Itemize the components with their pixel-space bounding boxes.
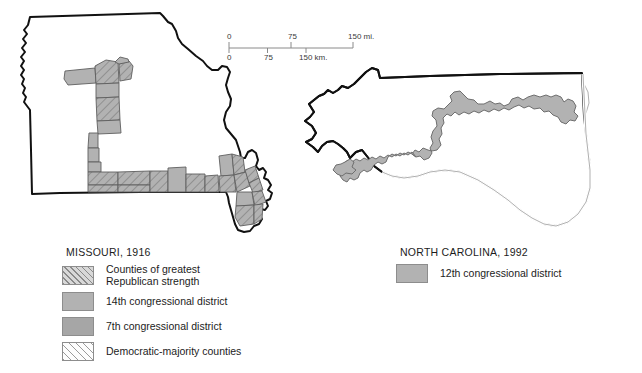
- county-shape: [95, 60, 119, 84]
- county-shape: [205, 175, 219, 192]
- north-carolina-legend: NORTH CAROLINA, 1992 12th congressional …: [396, 246, 561, 289]
- scale-km-75: 75: [264, 53, 273, 62]
- county-shape: [118, 185, 150, 192]
- north-carolina-map: [305, 68, 590, 226]
- nc-12th-district-southern-bulb: [333, 159, 356, 176]
- swatch-7th-district: [62, 317, 94, 336]
- legend-label-12th-district: 12th congressional district: [440, 268, 561, 280]
- county-shape: [118, 171, 150, 185]
- county-shape: [97, 120, 121, 134]
- swatch-12th-district: [396, 264, 428, 283]
- county-shape: [235, 205, 254, 226]
- legend-label-7th-district: 7th congressional district: [106, 321, 222, 333]
- distance-scale-bar: 0 75 150 mi. 0 75 150 km.: [227, 33, 363, 63]
- swatch-democratic-counties: [62, 342, 94, 361]
- missouri-legend: MISSOURI, 1916 Counties of greatest Repu…: [62, 246, 241, 367]
- scale-miles-150: 150 mi.: [348, 32, 374, 41]
- legend-label-republican-strength: Counties of greatest Republican strength: [106, 264, 200, 287]
- missouri-legend-title: MISSOURI, 1916: [66, 246, 241, 258]
- legend-item-14th-district: 14th congressional district: [62, 292, 241, 311]
- county-shape: [150, 171, 168, 192]
- county-shape: [88, 185, 118, 192]
- swatch-republican-strength: [62, 266, 94, 285]
- map-figure: 0 75 150 mi. 0 75 150 km. MISSOURI, 1916…: [0, 0, 642, 373]
- county-shape: [232, 154, 245, 175]
- county-shape: [219, 175, 236, 192]
- county-shape: [88, 172, 118, 185]
- county-shape: [236, 192, 254, 206]
- scale-miles-75: 75: [288, 32, 297, 41]
- county-shape: [186, 174, 205, 192]
- legend-item-12th-district: 12th congressional district: [396, 264, 561, 283]
- county-shape: [168, 167, 186, 192]
- scale-km-150: 150 km.: [299, 53, 327, 62]
- scale-km-0: 0: [227, 53, 231, 62]
- legend-item-democratic-counties: Democratic-majority counties: [62, 342, 241, 361]
- nc-state-outline: [305, 68, 590, 226]
- legend-label-democratic-counties: Democratic-majority counties: [106, 346, 241, 358]
- county-shape: [96, 83, 119, 98]
- county-shape: [64, 68, 96, 85]
- county-shape: [96, 97, 120, 121]
- county-shape: [88, 148, 99, 162]
- county-shape: [219, 154, 234, 176]
- north-carolina-legend-title: NORTH CAROLINA, 1992: [400, 246, 561, 258]
- legend-item-republican-strength: Counties of greatest Republican strength: [62, 264, 241, 287]
- county-shape: [88, 133, 98, 148]
- county-shape: [88, 162, 101, 172]
- legend-item-7th-district: 7th congressional district: [62, 317, 241, 336]
- legend-label-14th-district: 14th congressional district: [106, 296, 227, 308]
- swatch-14th-district: [62, 292, 94, 311]
- scale-miles-0: 0: [227, 32, 231, 41]
